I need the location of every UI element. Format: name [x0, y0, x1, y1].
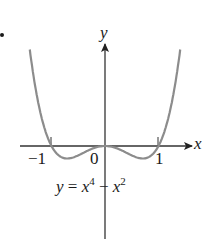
eq-equals: =	[64, 177, 82, 196]
tick-label-one: 1	[155, 150, 164, 167]
eq-lhs: y	[56, 177, 64, 196]
tick-label-neg-one: −1	[28, 150, 46, 167]
equation-label: y = x4 − x2	[56, 176, 126, 195]
y-axis-label: y	[100, 24, 108, 41]
eq-exp2: 2	[120, 175, 126, 187]
x-axis-label: x	[194, 135, 202, 152]
eq-minus: −	[95, 177, 113, 196]
tick-label-zero: 0	[90, 150, 99, 167]
